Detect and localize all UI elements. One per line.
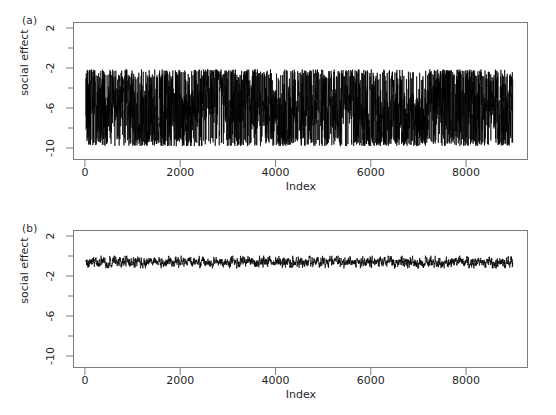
y-tick-label-text: -10 xyxy=(44,135,58,161)
panel-a: (a) social effect Index 2-2-6-1002000400… xyxy=(0,0,556,207)
y-tick-label-text: 2 xyxy=(44,223,58,249)
x-tick-label: 2000 xyxy=(150,166,210,179)
y-tick-label: -10 xyxy=(38,349,64,363)
y-tick-label: 2 xyxy=(38,21,64,35)
y-tick-label-text: 2 xyxy=(44,15,58,41)
panel-b-x-axis-label: Index xyxy=(73,388,529,401)
y-tick-label-text: -2 xyxy=(44,55,58,81)
panel-a-x-axis-label: Index xyxy=(73,180,529,193)
panel-a-trace-svg xyxy=(74,23,527,159)
x-tick-label: 6000 xyxy=(341,166,401,179)
x-tick-label: 4000 xyxy=(245,166,305,179)
figure-trace-plots: (a) social effect Index 2-2-6-1002000400… xyxy=(0,0,556,415)
y-tick-label: -6 xyxy=(38,101,64,115)
x-tick-label: 8000 xyxy=(436,374,496,387)
x-tick-label: 4000 xyxy=(245,374,305,387)
y-tick-label-text: -6 xyxy=(44,95,58,121)
x-tick-label: 8000 xyxy=(436,166,496,179)
y-tick-label: -10 xyxy=(38,141,64,155)
x-tick-label: 0 xyxy=(55,374,115,387)
y-tick-label-text: -2 xyxy=(44,263,58,289)
y-tick-label-text: -6 xyxy=(44,303,58,329)
y-tick-label-text: -10 xyxy=(44,343,58,369)
panel-a-plot-area xyxy=(73,22,528,160)
panel-b-trace-svg xyxy=(74,231,527,367)
x-tick-label: 2000 xyxy=(150,374,210,387)
y-tick-label: -2 xyxy=(38,269,64,283)
panel-b-y-axis-label: social effect xyxy=(18,226,31,316)
x-tick-label: 0 xyxy=(55,166,115,179)
x-tick-label: 6000 xyxy=(341,374,401,387)
panel-b: (b) social effect Index 2-2-6-1002000400… xyxy=(0,208,556,415)
panel-b-plot-area xyxy=(73,230,528,368)
y-tick-label: -6 xyxy=(38,309,64,323)
y-tick-label: 2 xyxy=(38,229,64,243)
y-tick-label: -2 xyxy=(38,61,64,75)
panel-a-y-axis-label: social effect xyxy=(18,18,31,108)
